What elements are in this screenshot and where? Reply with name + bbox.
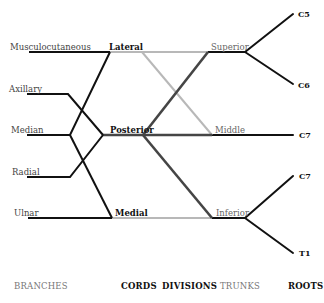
branch-lines — [27, 52, 112, 218]
column-label-divisions: DIVISIONS — [162, 281, 217, 291]
column-label-branches: BRANCHES — [14, 281, 68, 291]
trunk-label-inferior: Inferior — [216, 208, 249, 218]
root-label-c7-middle: C7 — [299, 130, 311, 140]
posterior-division-lines — [103, 52, 212, 218]
root-label-c6: C6 — [298, 80, 310, 90]
column-label-trunks: TRUNKS — [220, 281, 260, 291]
root-label-c5: C5 — [298, 9, 310, 19]
root-label-t1: T1 — [299, 248, 311, 258]
branch-label-ulnar: Ulnar — [14, 208, 39, 218]
brachial-plexus-diagram: Musculocutaneous Axillary Median Radial … — [0, 0, 324, 303]
column-label-roots: ROOTS — [288, 281, 323, 291]
column-label-cords: CORDS — [121, 281, 157, 291]
branch-label-radial: Radial — [12, 167, 40, 177]
branch-label-median: Median — [11, 125, 43, 135]
trunk-label-superior: Superior — [211, 42, 249, 52]
trunk-label-middle: Middle — [215, 125, 245, 135]
cord-label-posterior: Posterior — [110, 125, 154, 135]
branch-label-axillary: Axillary — [9, 84, 42, 94]
cord-label-medial: Medial — [115, 208, 148, 218]
cord-label-lateral: Lateral — [109, 42, 143, 52]
branch-label-musculocutaneous: Musculocutaneous — [10, 42, 91, 52]
root-label-c7-inferior: C7 — [299, 171, 311, 181]
